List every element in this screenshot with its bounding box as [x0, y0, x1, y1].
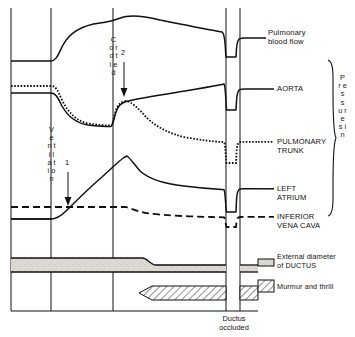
- trace-label-left-atrium: LEFT ATRIUM: [277, 184, 306, 203]
- pressures-bracket: [328, 60, 336, 216]
- trace-label-pulmonary-trunk: PULMONARY TRUNK: [277, 137, 326, 156]
- leader-lines: [258, 38, 274, 292]
- annotation-number-2: 2: [121, 48, 125, 57]
- event-label-ventilation: V e n t i l a t i o n: [47, 126, 56, 183]
- figure-root: V e n t i l a t i o n C o r d t i e d 1 …: [0, 0, 355, 337]
- trace-label-aorta: AORTA: [277, 84, 303, 93]
- trace-inferior-vena-cava: [11, 207, 258, 227]
- band-external-diameter-of-ductus: [11, 258, 258, 272]
- annotation-number-1: 1: [65, 158, 69, 167]
- trace-pulmonary-blood-flow: [11, 16, 258, 61]
- trace-label-external-diameter-of-ductus: External diameter of DUCTUS: [277, 252, 336, 270]
- trace-label-inferior-vena-cava: INFERIOR VENA CAVA: [277, 212, 320, 231]
- caption-ductus-occluded: Ductus occluded: [205, 314, 263, 332]
- trace-label-pulmonary-blood-flow: Pulmonary blood flow: [268, 28, 306, 47]
- annotation-arrow-2: [121, 62, 128, 97]
- trace-label-murmur-and-thrill: Murmur and thrill: [277, 282, 333, 291]
- bracket-label-pressures-in: P r e s s u r e s i n: [338, 74, 347, 140]
- event-label-cord-tied: C o r d t i e d: [109, 36, 118, 77]
- annotation-arrow-1: [65, 172, 72, 206]
- band-murmur-and-thrill: [139, 286, 258, 300]
